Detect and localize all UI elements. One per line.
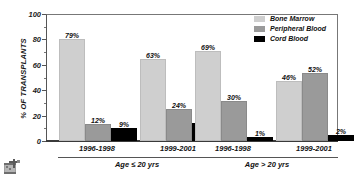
bar-value-label: 1% <box>255 130 265 137</box>
bar-peripheral-blood-g3[interactable]: 52% <box>302 73 328 141</box>
bar-value-label: 9% <box>119 121 129 128</box>
legend-label-cord-blood: Cord Blood <box>270 35 308 42</box>
bar-peripheral-blood-g2[interactable]: 30% <box>221 101 247 141</box>
group-rule-age-le-20 <box>58 157 216 158</box>
bar-peripheral-blood-g0[interactable]: 12% <box>85 124 111 141</box>
broken-image-placeholder-icon <box>3 159 23 178</box>
chart-legend: Bone Marrow Peripheral Blood Cord Blood <box>254 14 326 44</box>
bar-value-label: 79% <box>65 32 79 39</box>
bar-value-label: 12% <box>91 117 105 124</box>
group-label-age-le-20: Age ≤ 20 yrs <box>115 160 159 169</box>
bar-cord-blood-g3[interactable]: 2% <box>328 135 354 141</box>
legend-item-peripheral-blood[interactable]: Peripheral Blood <box>254 24 326 33</box>
legend-swatch-peripheral-blood-icon <box>254 26 265 32</box>
x-tick-label-period-1: 1999-2001 <box>160 144 196 153</box>
bar-bone-marrow-g1[interactable]: 63% <box>140 59 166 141</box>
legend-label-peripheral-blood: Peripheral Blood <box>270 25 326 32</box>
x-tick-label-period-3: 1999-2001 <box>296 144 332 153</box>
y-axis-title: % OF TRANSPLANTS <box>19 9 28 149</box>
bar-bone-marrow-g0[interactable]: 79% <box>59 39 85 141</box>
legend-item-bone-marrow[interactable]: Bone Marrow <box>254 14 326 23</box>
x-tick-label-period-0: 1996-1998 <box>79 144 115 153</box>
x-tick-label-period-2: 1996-1998 <box>215 144 251 153</box>
legend-swatch-cord-blood-icon <box>254 36 265 42</box>
bar-cord-blood-g0[interactable]: 9% <box>111 128 137 141</box>
bar-bone-marrow-g2[interactable]: 69% <box>195 51 221 141</box>
legend-swatch-bone-marrow-icon <box>254 16 265 22</box>
group-rule-age-gt-20 <box>196 157 338 158</box>
legend-item-cord-blood[interactable]: Cord Blood <box>254 34 326 43</box>
bar-value-label: 46% <box>282 74 296 81</box>
bar-value-label: 63% <box>146 52 160 59</box>
bar-value-label: 69% <box>201 44 215 51</box>
bar-cord-blood-g2[interactable]: 1% <box>247 137 273 142</box>
bar-value-label: 52% <box>308 66 322 73</box>
bar-value-label: 24% <box>172 102 186 109</box>
group-label-age-gt-20: Age > 20 yrs <box>245 160 289 169</box>
bar-bone-marrow-g3[interactable]: 46% <box>276 81 302 141</box>
legend-label-bone-marrow: Bone Marrow <box>270 15 314 22</box>
bar-peripheral-blood-g1[interactable]: 24% <box>166 109 192 142</box>
bar-value-label: 2% <box>336 128 346 135</box>
bar-value-label: 30% <box>227 94 241 101</box>
